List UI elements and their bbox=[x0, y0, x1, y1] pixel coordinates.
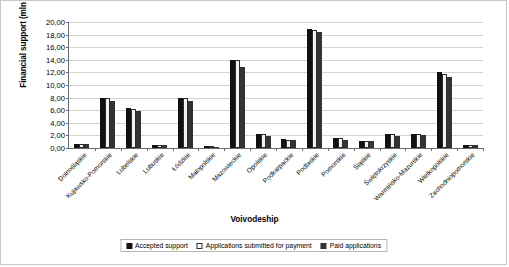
bar bbox=[447, 77, 452, 148]
legend-label: Paid applications bbox=[330, 242, 381, 249]
bar-group bbox=[431, 22, 457, 148]
x-tick-label: Lubelskie bbox=[115, 151, 140, 176]
chart-frame: Financial support (mln PLN) 0,002,004,00… bbox=[0, 0, 507, 265]
bar-group bbox=[250, 22, 276, 148]
bar-group bbox=[173, 22, 199, 148]
plot-area: 0,002,004,006,008,0010,0012,0014,0016,00… bbox=[68, 22, 483, 149]
chart-legend: Accepted supportApplications submitted f… bbox=[120, 239, 387, 252]
bar-groups bbox=[69, 22, 483, 148]
y-tick-label: 18,00 bbox=[31, 30, 65, 39]
bar-group bbox=[354, 22, 380, 148]
bar bbox=[110, 101, 115, 148]
legend-item: Accepted support bbox=[126, 242, 188, 249]
bar bbox=[162, 145, 167, 148]
bar bbox=[395, 136, 400, 148]
legend-swatch bbox=[126, 243, 132, 249]
bar bbox=[291, 140, 296, 148]
bar-group bbox=[95, 22, 121, 148]
y-tick-label: 8,00 bbox=[31, 93, 65, 102]
bar bbox=[214, 147, 219, 148]
bar-group bbox=[147, 22, 173, 148]
bar bbox=[343, 140, 348, 148]
bar bbox=[84, 144, 89, 148]
legend-swatch bbox=[321, 243, 327, 249]
y-tick-label: 20,00 bbox=[31, 18, 65, 27]
bar-group bbox=[121, 22, 147, 148]
legend-item: Paid applications bbox=[321, 242, 381, 249]
bar bbox=[266, 136, 271, 148]
x-tick-label: Warmińsko-Mazurskie bbox=[373, 151, 424, 202]
x-tick-label: Podlaskie bbox=[295, 151, 320, 176]
x-axis-labels: DolnośląskieKujawsko-PomorskieLubelskieL… bbox=[68, 151, 482, 213]
bar-group bbox=[198, 22, 224, 148]
bar-group bbox=[276, 22, 302, 148]
bar-group bbox=[380, 22, 406, 148]
bar bbox=[136, 111, 141, 148]
legend-label: Accepted support bbox=[135, 242, 188, 249]
bar-group bbox=[328, 22, 354, 148]
x-tick-label: Pomorskie bbox=[319, 151, 346, 178]
bar bbox=[317, 32, 322, 148]
y-tick-mark bbox=[66, 148, 69, 149]
bar bbox=[369, 141, 374, 148]
x-tick-label: Kujawsko-Pomorskie bbox=[65, 151, 113, 199]
y-tick-label: 10,00 bbox=[31, 81, 65, 90]
legend-item: Applications submitted for payment bbox=[197, 242, 312, 249]
bar-group bbox=[69, 22, 95, 148]
x-axis-title: Voivodeship bbox=[1, 215, 508, 224]
bar bbox=[473, 145, 478, 148]
y-axis-title: Financial support (mln PLN) bbox=[19, 0, 28, 105]
x-tick-label: Śląskie bbox=[352, 151, 372, 171]
legend-label: Applications submitted for payment bbox=[206, 242, 312, 249]
bar-group bbox=[224, 22, 250, 148]
bar-group bbox=[405, 22, 431, 148]
x-tick-label: Lubuskie bbox=[141, 151, 165, 175]
y-tick-label: 14,00 bbox=[31, 55, 65, 64]
y-tick-label: 2,00 bbox=[31, 131, 65, 140]
y-tick-label: 16,00 bbox=[31, 43, 65, 52]
y-tick-label: 6,00 bbox=[31, 106, 65, 115]
bar bbox=[421, 135, 426, 148]
bar bbox=[240, 67, 245, 148]
y-tick-label: 0,00 bbox=[31, 144, 65, 153]
bar-group bbox=[457, 22, 483, 148]
y-tick-label: 12,00 bbox=[31, 68, 65, 77]
legend-swatch bbox=[197, 243, 203, 249]
x-tick-label: Zachodniopomorskie bbox=[427, 151, 475, 199]
bar bbox=[188, 101, 193, 148]
y-tick-label: 4,00 bbox=[31, 118, 65, 127]
bar-group bbox=[302, 22, 328, 148]
x-tick-label: Łódzkie bbox=[170, 151, 191, 172]
x-tick-label: Opolskie bbox=[246, 151, 269, 174]
